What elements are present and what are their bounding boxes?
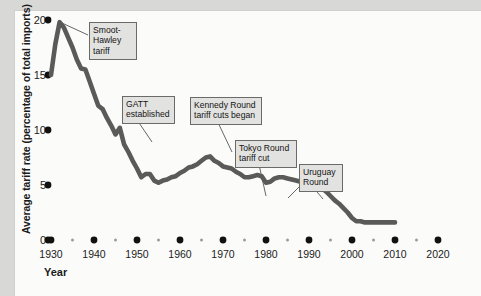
callout-smoot-hawley: Smoot- Hawley tariff: [89, 22, 137, 60]
callout-uruguay-round: Uruguay Round: [299, 164, 343, 192]
callout-gatt: GATT established: [122, 96, 175, 124]
callout-tokyo-round: Tokyo Round tariff cut: [235, 140, 297, 168]
x-minor-tick-dots: [71, 239, 418, 242]
y-tick-dots: [45, 17, 52, 244]
callout-kennedy-round: Kennedy Round tariff cuts began: [190, 97, 262, 125]
